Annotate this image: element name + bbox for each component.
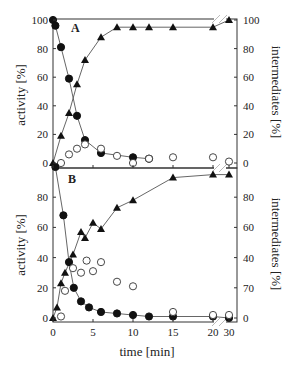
point-product [73,80,81,87]
panel-frames [53,15,237,326]
point-product [97,225,105,232]
point-product [129,23,137,30]
point-intermediate [169,154,176,161]
y-tick-label-left: 0 [43,157,49,169]
x-tick-label: 20 [208,326,220,338]
y-tick-label-right: 0 [243,157,249,169]
point-intermediate [145,155,152,162]
point-intermediate [77,269,84,276]
fit-curve-filled-circle [53,20,149,159]
point-product [145,23,153,30]
point-product [113,23,121,30]
point-intermediate [225,158,232,165]
point-intermediate [129,283,136,290]
point-intermediate [97,145,104,152]
point-product [209,23,217,30]
point-intermediate [65,151,72,158]
point-product [53,303,61,310]
x-axis-title: time [min] [119,344,174,359]
x-tick-label: 10 [128,326,140,338]
point-product [65,109,73,116]
point-activity [129,311,136,318]
y-tick-label-left: 40 [37,252,49,264]
point-product [209,171,217,178]
point-intermediate [209,154,216,161]
point-intermediate [97,259,104,266]
y-axis-title-left-b: activity [%] [13,214,28,276]
point-activity [85,304,92,311]
data-points [49,16,233,322]
point-activity [77,298,84,305]
point-intermediate [169,308,176,315]
y-tick-label-right: 80 [243,191,255,203]
point-product [57,279,65,286]
y-tick-label-left: 60 [37,71,49,83]
fit-curve-filled-triangle [53,175,229,318]
point-activity [97,308,104,315]
point-product [77,228,85,235]
point-product [97,33,105,40]
point-intermediate [73,145,80,152]
point-product [113,204,121,211]
point-product [225,171,233,178]
y-axis-title-right-b: intermediates [%] [269,198,284,291]
point-intermediate [81,141,88,148]
y-axis-title-left-a: activity [%] [13,64,28,126]
x-tick-label: 30 [224,326,236,338]
point-product [81,56,89,63]
y-tick-label-left: 0 [43,312,49,324]
panel-label-a: A [71,21,80,35]
figure: 0204060801000204060801000204060800704060… [0,0,293,367]
y-tick-label-right: 80 [243,43,255,55]
point-activity [57,44,64,51]
fit-curve-filled-circle [55,167,229,318]
y-tick-label-left: 20 [37,128,49,140]
x-tick-label: 0 [50,326,56,338]
point-intermediate [61,287,68,294]
y-axis-title-right-a: intermediates [%] [269,46,284,139]
panel-frame-a [53,19,237,168]
y-tick-label-left: 80 [37,43,49,55]
y-tick-label-right: 100 [243,14,260,26]
point-activity [60,212,67,219]
point-activity [52,22,59,29]
point-intermediate [57,313,64,320]
point-activity [73,112,80,119]
point-intermediate [225,311,232,318]
y-tick-label-right: 40 [243,100,255,112]
y-tick-label-left: 80 [37,191,49,203]
point-product [169,23,177,30]
y-tick-label-left: 20 [37,282,49,294]
x-tick-label: 15 [168,326,180,338]
x-tick-label: 5 [90,326,96,338]
point-activity [70,284,77,291]
point-intermediate [209,311,216,318]
panel-label-b: B [68,172,76,186]
y-tick-label-left: 40 [37,100,49,112]
y-tick-label-left: 60 [37,221,49,233]
y-tick-label-right: 60 [243,221,255,233]
point-intermediate [113,152,120,159]
point-product [129,196,137,203]
y-tick-label-right: 0 [243,312,249,324]
point-product [61,269,69,276]
fit-curve-filled-triangle [53,20,229,163]
y-tick-label-right: 60 [243,71,255,83]
point-activity [113,310,120,317]
point-activity [145,313,152,320]
y-tick-label-right: 20 [243,128,255,140]
y-tick-label-right: 40 [243,252,255,264]
point-product [57,132,65,139]
point-intermediate [69,265,76,272]
point-product [89,219,97,226]
point-product [81,234,89,241]
y-tick-label-left: 100 [32,14,49,26]
point-intermediate [89,268,96,275]
y-tick-label-right: 70 [243,282,255,294]
point-product [69,251,77,258]
point-intermediate [113,278,120,285]
point-intermediate [83,257,90,264]
point-activity [65,75,72,82]
